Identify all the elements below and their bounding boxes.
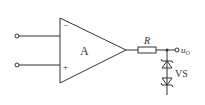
noninverting-input-terminal [15,63,19,67]
opamp-label: A [80,44,89,58]
resistor-label: R [143,35,150,46]
output-label: uO [181,45,191,56]
inverting-input-terminal [15,34,19,38]
output-terminal [175,48,179,52]
resistor [138,47,156,53]
noninverting-sign: + [63,62,68,72]
zener-label: VS [175,68,188,79]
opamp-triangle [60,18,126,83]
inverting-sign: − [63,20,68,30]
circuit-diagram: − + A R uO VS [0,0,205,105]
